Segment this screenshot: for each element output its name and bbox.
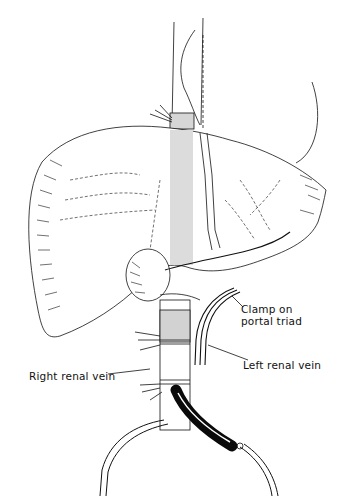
retrohepatic-cava — [170, 130, 193, 265]
left-renal-vein-label: Left renal vein — [243, 359, 321, 371]
clamp-label-line2: portal triad — [241, 315, 302, 327]
diaphragm-outline — [296, 82, 318, 163]
right-renal-vein-label: Right renal vein — [29, 370, 115, 382]
bypass-tubing — [100, 420, 278, 496]
left-renal-leader-line — [208, 345, 248, 360]
portal-triad-clamp — [195, 288, 240, 365]
gallbladder — [126, 249, 170, 301]
suprahepatic-vena-cava — [150, 18, 203, 130]
liver-surgery-illustration — [0, 0, 338, 496]
clamp-label-line1: Clamp on — [241, 303, 302, 315]
clamp-on-portal-triad-label: Clamp on portal triad — [241, 303, 302, 327]
